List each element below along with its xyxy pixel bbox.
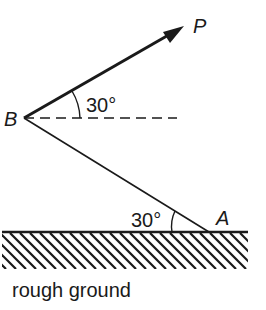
- angle-label-a: 30°: [131, 209, 161, 231]
- ground-label: rough ground: [12, 279, 131, 301]
- angle-arc-a: [172, 211, 175, 232]
- angle-label-b: 30°: [86, 94, 116, 116]
- label-b: B: [4, 108, 17, 130]
- ground-hatching: [0, 233, 266, 269]
- arrowhead-icon: [163, 26, 184, 43]
- angle-arc-b: [72, 91, 80, 118]
- label-a: A: [215, 207, 229, 229]
- force-diagram: B P A 30° 30° rough ground: [0, 0, 266, 310]
- label-p: P: [193, 15, 207, 37]
- rod-ab: [24, 118, 209, 232]
